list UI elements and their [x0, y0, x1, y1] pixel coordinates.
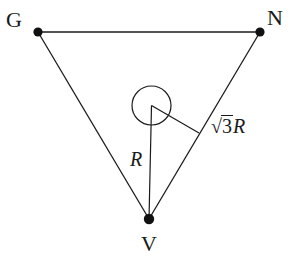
- radical-group: √3: [211, 115, 233, 136]
- geometry-figure: G N V R √3R: [0, 0, 294, 262]
- vertex-dot-g: [33, 27, 42, 36]
- vertex-label-v: V: [141, 233, 157, 255]
- edge-v-g: [38, 32, 149, 219]
- segment-label-sqrt3r: √3R: [211, 115, 245, 136]
- segment-r-line: [149, 106, 152, 220]
- figure-canvas: [0, 0, 294, 262]
- segment-sqrt3r-line: [152, 106, 200, 134]
- segment-label-r: R: [130, 149, 142, 169]
- vertex-label-n: N: [267, 7, 283, 29]
- vertex-dot-n: [255, 27, 264, 36]
- variable-r: R: [233, 115, 245, 137]
- radicand-value: 3: [221, 115, 233, 136]
- vertex-dot-v: [144, 214, 154, 224]
- vertex-label-g: G: [6, 9, 22, 31]
